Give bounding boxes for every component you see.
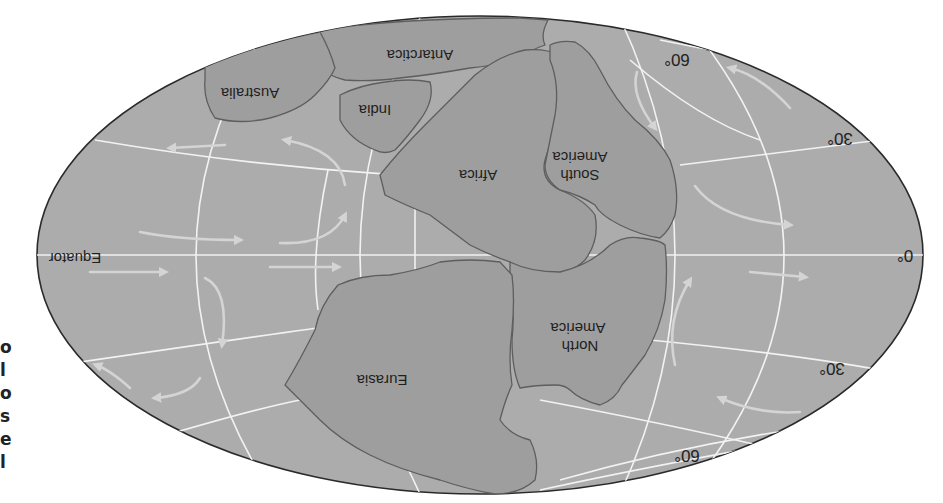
lat-60-top-label: 60° [664, 50, 690, 69]
equator-label: Equator [49, 250, 102, 267]
eurasia-label: Eurasia [356, 372, 408, 389]
india-label: India [358, 102, 391, 119]
africa-label: Africa [458, 167, 497, 184]
pangaea-map: Antarctica Australia India Africa South … [0, 0, 943, 503]
antarctica-label: Antarctica [386, 47, 453, 64]
australia-label: Australia [220, 85, 279, 102]
lat-60-bottom-label: 60° [674, 446, 700, 465]
north-america-label-line1: North [562, 338, 599, 355]
lat-0-label: 0° [897, 246, 913, 265]
south-america-label-line1: South [560, 167, 599, 184]
lat-30-bottom-label: 30° [819, 359, 845, 378]
lat-30-top-label: 30° [827, 129, 853, 148]
south-america-label-line2: America [552, 149, 608, 166]
north-america-label-line2: America [550, 320, 606, 337]
